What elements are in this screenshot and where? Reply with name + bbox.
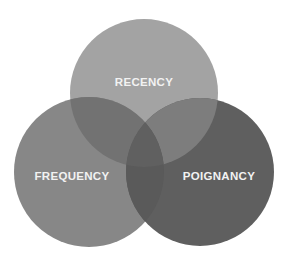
label-poignancy: POIGNANCY [183, 170, 255, 182]
label-recency: RECENCY [115, 76, 173, 88]
venn-diagram: RECENCY FREQUENCY POIGNANCY [0, 0, 289, 263]
label-frequency: FREQUENCY [35, 170, 110, 182]
